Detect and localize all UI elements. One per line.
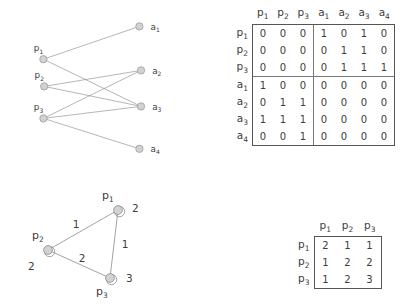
matrix-cell: 0	[273, 42, 293, 59]
edge-p2-a3	[44, 86, 141, 106]
edge-p2-a2	[44, 70, 141, 86]
matrix-cell: 1	[253, 111, 274, 128]
matrix-cell: 0	[354, 77, 374, 95]
small-matrix-cell: 2	[359, 254, 382, 271]
matrix-cell: 1	[293, 111, 314, 128]
matrix-cell: 0	[273, 59, 293, 77]
node-label-a2: a2	[152, 66, 161, 77]
matrix-cell: 1	[354, 59, 374, 77]
triangle-node-p2	[44, 246, 53, 255]
matrix-cell: 1	[354, 25, 374, 43]
matrix-row-header-4: a2	[232, 94, 253, 111]
adjacency-matrix-large-table: p1p2p3a1a2a3a4p10001010p20000110p3000011…	[232, 4, 395, 146]
matrix-cell: 0	[314, 77, 335, 95]
matrix-cell: 0	[253, 59, 274, 77]
matrix-cell: 1	[334, 42, 354, 59]
matrix-cell: 0	[314, 128, 335, 146]
matrix-cell: 0	[293, 42, 314, 59]
matrix-row-header-6: a4	[232, 128, 253, 146]
edge-p1-a3	[43, 59, 141, 106]
small-matrix-header-row: p1p2p3	[292, 218, 381, 237]
triangle-edge-p1-p2	[48, 210, 118, 250]
matrix-cell: 0	[293, 59, 314, 77]
matrix-cell: 0	[253, 128, 274, 146]
matrix-row: p10001010	[232, 25, 395, 43]
matrix-cell: 0	[253, 94, 274, 111]
matrix-row: p20000110	[232, 42, 395, 59]
small-matrix-col-header-0: p1	[314, 218, 337, 237]
node-label-p3: p3	[34, 102, 44, 113]
triangle-edge-p1-p3	[110, 210, 118, 278]
matrix-row-header-2: p3	[232, 59, 253, 77]
small-matrix-row: p1211	[292, 237, 381, 255]
matrix-cell: 1	[354, 42, 374, 59]
matrix-row-header-5: a3	[232, 111, 253, 128]
edge-p3-a2	[43, 70, 141, 118]
adjacency-matrix-large: p1p2p3a1a2a3a4p10001010p20000110p3000011…	[232, 4, 395, 146]
matrix-row: p30000111	[232, 59, 395, 77]
matrix-cell: 0	[354, 128, 374, 146]
small-matrix-col-header-2: p3	[359, 218, 382, 237]
matrix-cell: 1	[334, 59, 354, 77]
triangle-graph-svg: 112p12p22p33	[10, 182, 190, 305]
matrix-cell: 1	[273, 94, 293, 111]
weighted-triangle-graph: 112p12p22p33	[10, 182, 190, 300]
matrix-col-header-p2: p2	[273, 4, 293, 25]
self-loop-weight-p2: 2	[28, 260, 35, 272]
matrix-cell: 0	[293, 25, 314, 43]
graph-node-a1	[136, 23, 143, 30]
graph-node-a3	[137, 103, 144, 110]
path-count-matrix-small-table: p1p2p3p1211p2122p3123	[292, 218, 382, 289]
matrix-col-header-a3: a3	[354, 4, 374, 25]
small-matrix-col-header-1: p2	[337, 218, 359, 237]
small-matrix-cell: 1	[337, 237, 359, 255]
matrix-cell: 0	[354, 94, 374, 111]
triangle-node-p3	[106, 274, 115, 283]
matrix-cell: 0	[314, 42, 335, 59]
path-count-matrix-small: p1p2p3p1211p2122p3123	[292, 218, 382, 289]
small-matrix-cell: 2	[314, 237, 337, 255]
matrix-cell: 0	[273, 128, 293, 146]
triangle-labels: 112p12p22p33	[28, 189, 139, 300]
matrix-cell: 0	[354, 111, 374, 128]
graph-node-a4	[136, 145, 143, 152]
matrix-cell: 0	[334, 77, 354, 95]
edge-weight-p2-p3: 2	[79, 252, 86, 264]
node-label-p2: p2	[35, 70, 45, 81]
matrix-col-header-a4: a4	[374, 4, 395, 25]
small-matrix-cell: 2	[337, 254, 359, 271]
graph-node-p1	[40, 56, 47, 63]
edge-weight-p1-p3: 1	[122, 238, 129, 250]
matrix-cell: 1	[293, 128, 314, 146]
matrix-cell: 1	[374, 59, 395, 77]
matrix-cell: 0	[334, 111, 354, 128]
graph-node-p3	[40, 115, 47, 122]
matrix-row-header-1: p2	[232, 42, 253, 59]
matrix-cell: 0	[374, 128, 395, 146]
self-loop-weight-p1: 2	[132, 202, 139, 214]
matrix-col-header-a1: a1	[314, 4, 335, 25]
triangle-node-p1	[114, 206, 123, 215]
bipartite-nodes	[40, 23, 145, 153]
matrix-cell: 0	[334, 25, 354, 43]
node-label-a1: a1	[151, 22, 160, 33]
matrix-row: a40010000	[232, 128, 395, 146]
matrix-header-row: p1p2p3a1a2a3a4	[232, 4, 395, 25]
node-label-p1: p1	[34, 43, 44, 54]
triangle-node-label-p1: p1	[102, 189, 114, 204]
small-matrix-cell: 1	[314, 271, 337, 289]
matrix-col-header-a2: a2	[334, 4, 354, 25]
matrix-cell: 0	[374, 25, 395, 43]
small-matrix-row: p3123	[292, 271, 381, 289]
matrix-col-header-p1: p1	[253, 4, 274, 25]
small-matrix-cell: 2	[337, 271, 359, 289]
triangle-node-label-p3: p3	[96, 285, 108, 300]
matrix-cell: 0	[253, 42, 274, 59]
triangle-edges	[48, 210, 118, 278]
matrix-row-header-3: a1	[232, 77, 253, 95]
matrix-cell: 0	[334, 128, 354, 146]
graph-node-a2	[137, 67, 144, 74]
graph-node-p2	[41, 83, 48, 90]
matrix-cell: 0	[314, 59, 335, 77]
matrix-cell: 0	[374, 42, 395, 59]
